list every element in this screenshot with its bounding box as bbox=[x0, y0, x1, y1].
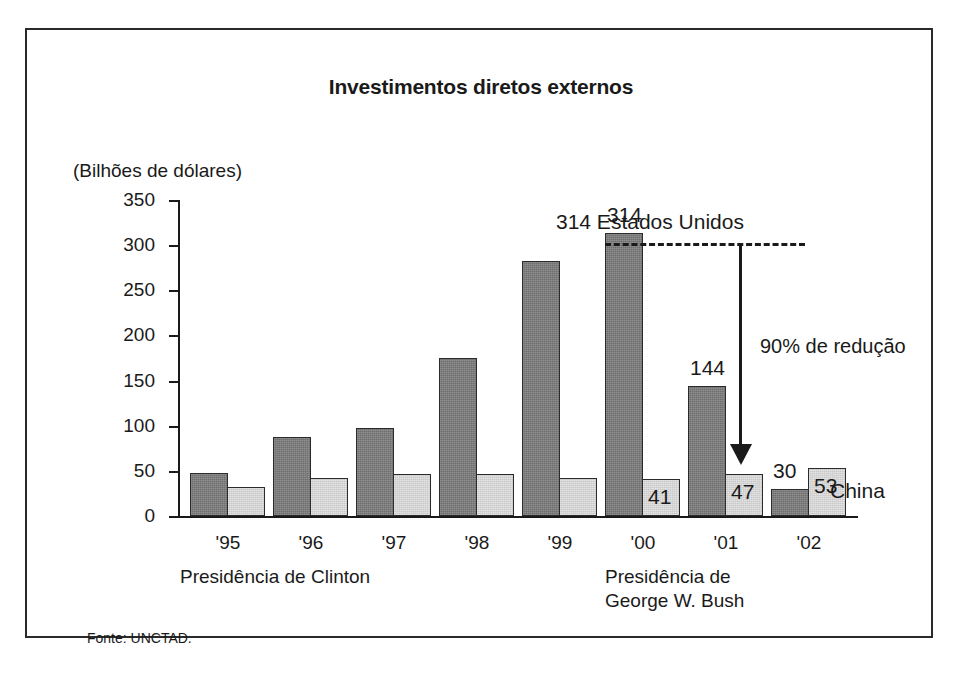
y-axis-line bbox=[178, 200, 180, 518]
peak-reference-dashed-line bbox=[605, 243, 805, 246]
y-tick-300: 300 bbox=[169, 245, 178, 247]
bar-estados-unidos-01 bbox=[688, 386, 726, 516]
caption-presidency-clinton: Presidência de Clinton bbox=[180, 565, 370, 589]
y-axis-unit-label: (Bilhões de dólares) bbox=[73, 160, 242, 182]
y-tick-label-0: 0 bbox=[144, 505, 155, 527]
bar-estados-unidos-00 bbox=[605, 233, 643, 516]
x-tick-label-95: '95 bbox=[180, 532, 276, 554]
annotation-china-series: China bbox=[830, 479, 885, 503]
bar-estados-unidos-97 bbox=[356, 428, 394, 516]
reduction-arrow-head-icon bbox=[730, 444, 752, 465]
chart-title: Investimentos diretos externos bbox=[27, 75, 935, 99]
bar-china-98 bbox=[476, 474, 514, 516]
x-tick-label-97: '97 bbox=[346, 532, 442, 554]
x-tick-label-96: '96 bbox=[263, 532, 359, 554]
value-label-estados-unidos-01: 144 bbox=[690, 356, 725, 380]
y-tick-label-250: 250 bbox=[123, 279, 155, 301]
bar-estados-unidos-02 bbox=[771, 489, 809, 516]
value-label-china-01: 47 bbox=[731, 480, 754, 504]
annotation-reduction: 90% de redução bbox=[760, 335, 906, 358]
source-note: Fonte: UNCTAD. bbox=[87, 630, 192, 646]
y-tick-label-300: 300 bbox=[123, 234, 155, 256]
y-tick-label-150: 150 bbox=[123, 370, 155, 392]
x-tick-label-01: '01 bbox=[678, 532, 774, 554]
y-tick-350: 350 bbox=[169, 200, 178, 202]
y-tick-150: 150 bbox=[169, 381, 178, 383]
plot-area: 050100150200250300350 '95'96'97'98'99'00… bbox=[178, 200, 878, 518]
value-label-estados-unidos-02: 30 bbox=[773, 459, 796, 483]
bar-group-00 bbox=[605, 200, 681, 516]
y-tick-200: 200 bbox=[169, 335, 178, 337]
bar-group-99 bbox=[522, 200, 598, 516]
bar-group-96 bbox=[273, 200, 349, 516]
x-tick-label-98: '98 bbox=[429, 532, 525, 554]
y-tick-250: 250 bbox=[169, 290, 178, 292]
y-tick-50: 50 bbox=[169, 471, 178, 473]
bar-group-97 bbox=[356, 200, 432, 516]
y-tick-label-50: 50 bbox=[134, 460, 155, 482]
y-tick-label-200: 200 bbox=[123, 324, 155, 346]
x-tick-label-00: '00 bbox=[595, 532, 691, 554]
y-tick-100: 100 bbox=[169, 426, 178, 428]
figure-page: Investimentos diretos externos (Bilhões … bbox=[0, 0, 964, 687]
bar-estados-unidos-98 bbox=[439, 358, 477, 516]
caption-presidency-bush: Presidência de George W. Bush bbox=[605, 565, 744, 614]
y-tick-label-350: 350 bbox=[123, 189, 155, 211]
bar-china-95 bbox=[227, 487, 265, 516]
bar-estados-unidos-96 bbox=[273, 437, 311, 516]
bar-group-98 bbox=[439, 200, 515, 516]
value-label-china-00: 41 bbox=[648, 485, 671, 509]
figure-frame: Investimentos diretos externos (Bilhões … bbox=[25, 28, 933, 638]
y-tick-label-100: 100 bbox=[123, 415, 155, 437]
x-tick-label-02: '02 bbox=[761, 532, 857, 554]
y-tick-0: 0 bbox=[169, 516, 178, 518]
bar-china-97 bbox=[393, 474, 431, 516]
x-axis-line bbox=[178, 516, 858, 518]
reduction-arrow-shaft bbox=[739, 245, 742, 450]
annotation-us-peak: 314 Estados Unidos bbox=[556, 210, 744, 234]
bar-group-95 bbox=[190, 200, 266, 516]
bar-china-96 bbox=[310, 478, 348, 516]
bar-estados-unidos-95 bbox=[190, 473, 228, 516]
bar-estados-unidos-99 bbox=[522, 261, 560, 516]
bar-china-99 bbox=[559, 478, 597, 516]
x-tick-label-99: '99 bbox=[512, 532, 608, 554]
